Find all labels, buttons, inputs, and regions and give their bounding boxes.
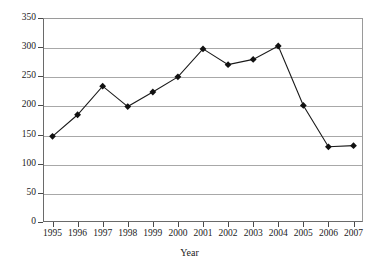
x-axis-tick <box>178 222 179 227</box>
gridline <box>44 165 362 166</box>
y-axis-tick <box>38 105 43 106</box>
x-axis-tick <box>153 222 154 227</box>
y-axis-tick-label: 0 <box>31 217 36 227</box>
y-axis-tick <box>38 164 43 165</box>
x-axis-tick-label: 1998 <box>118 229 137 239</box>
x-axis-tick-label: 2006 <box>319 229 338 239</box>
y-axis-tick <box>38 47 43 48</box>
x-axis-tick <box>228 222 229 227</box>
gridline <box>44 48 362 49</box>
y-axis-tick <box>38 222 43 223</box>
y-axis-tick-label: 250 <box>22 71 36 81</box>
y-axis-tick <box>38 193 43 194</box>
y-axis-tick <box>38 76 43 77</box>
plot-area <box>43 18 363 222</box>
x-axis-tick-label: 2003 <box>244 229 263 239</box>
x-axis-tick <box>328 222 329 227</box>
x-axis-tick-label: 2001 <box>194 229 213 239</box>
x-axis-tick-label: 1999 <box>143 229 162 239</box>
x-axis-tick <box>303 222 304 227</box>
x-axis-title: Year <box>0 247 379 258</box>
x-axis-tick-label: 2000 <box>168 229 187 239</box>
line-chart-figure: 050100150200250300350 Year 1995199619971… <box>0 0 379 273</box>
x-axis-tick-label: 1996 <box>68 229 87 239</box>
x-axis-tick <box>203 222 204 227</box>
y-axis-tick-label: 150 <box>22 130 36 140</box>
x-axis-tick <box>354 222 355 227</box>
y-axis-tick-label: 300 <box>22 42 36 52</box>
gridline <box>44 106 362 107</box>
y-axis-tick-label: 100 <box>22 159 36 169</box>
gridline <box>44 77 362 78</box>
y-axis-tick-label: 200 <box>22 100 36 110</box>
x-axis-tick-label: 2005 <box>294 229 313 239</box>
x-axis-tick-label: 2007 <box>344 229 363 239</box>
y-axis-tick-label: 50 <box>27 188 37 198</box>
y-axis-tick-labels: 050100150200250300350 <box>0 0 36 273</box>
x-axis-tick <box>103 222 104 227</box>
x-axis-tick <box>53 222 54 227</box>
y-axis-tick <box>38 18 43 19</box>
gridline <box>44 194 362 195</box>
x-axis-tick-label: 2004 <box>269 229 288 239</box>
gridline <box>44 136 362 137</box>
y-axis-tick <box>38 135 43 136</box>
x-axis-tick <box>128 222 129 227</box>
x-axis-tick-label: 1995 <box>43 229 62 239</box>
x-axis-tick <box>253 222 254 227</box>
x-axis-tick-label: 1997 <box>93 229 112 239</box>
x-axis-tick-label: 2002 <box>219 229 238 239</box>
x-axis-tick <box>78 222 79 227</box>
y-axis-tick-label: 350 <box>22 13 36 23</box>
x-axis-tick <box>278 222 279 227</box>
